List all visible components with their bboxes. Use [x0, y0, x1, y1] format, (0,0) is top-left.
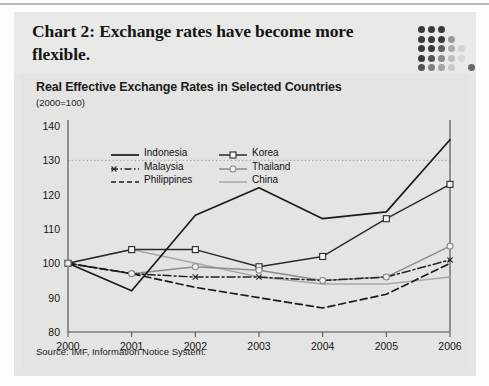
y-axis-tick-label: 90 — [48, 292, 60, 304]
legend-label: Malaysia — [144, 161, 183, 172]
data-point-marker — [320, 253, 326, 259]
legend-label: Indonesia — [144, 147, 187, 158]
data-point-marker — [447, 243, 453, 249]
legend-swatch-indonesia — [110, 154, 140, 156]
y-axis-tick-label: 130 — [42, 154, 60, 166]
data-point-marker — [65, 260, 71, 266]
legend-swatch-philippines — [110, 181, 140, 183]
data-point-marker — [320, 278, 326, 284]
chart-legend: IndonesiaMalaysiaPhilippinesKoreaThailan… — [110, 148, 340, 190]
data-point-marker — [192, 247, 198, 253]
figure-page: Chart 2: Exchange rates have become more… — [0, 0, 489, 386]
legend-swatch-korea — [218, 154, 248, 156]
x-axis-tick-label: 2003 — [247, 340, 271, 352]
legend-swatch-thailand — [218, 168, 248, 170]
legend-label: Philippines — [144, 174, 192, 185]
legend-swatch-china — [218, 181, 248, 183]
y-axis-tick-label: 100 — [42, 257, 60, 269]
x-axis-tick-label: 2005 — [375, 340, 399, 352]
data-point-marker — [447, 181, 453, 187]
legend-label: China — [252, 174, 278, 185]
top-divider — [0, 3, 489, 5]
x-axis-tick-label: 2006 — [438, 340, 462, 352]
chart-card-inner: Real Effective Exchange Rates in Selecte… — [22, 74, 468, 368]
plot-area: 8090100110120130140200020012002200320042… — [22, 74, 468, 368]
y-axis-tick-label: 110 — [43, 223, 60, 235]
series-line-korea — [68, 184, 450, 266]
data-point-marker — [129, 247, 135, 253]
data-point-marker — [383, 274, 389, 280]
title-band: Chart 2: Exchange rates have become more… — [14, 12, 476, 74]
source-note: Source: IMF, Information Notice System. — [36, 346, 206, 357]
figure-panel: Chart 2: Exchange rates have become more… — [14, 12, 476, 376]
legend-label: Korea — [252, 147, 279, 158]
y-axis-tick-label: 120 — [42, 189, 60, 201]
y-axis-tick-label: 80 — [48, 326, 60, 338]
data-point-marker — [256, 267, 262, 273]
y-axis-tick-label: 140 — [42, 120, 60, 132]
data-point-marker — [383, 216, 389, 222]
legend-label: Thailand — [252, 161, 290, 172]
chart-card: Real Effective Exchange Rates in Selecte… — [22, 74, 468, 368]
legend-swatch-malaysia — [110, 168, 140, 170]
line-chart-svg: 8090100110120130140200020012002200320042… — [22, 74, 468, 368]
figure-title: Chart 2: Exchange rates have become more… — [32, 20, 362, 66]
x-axis-tick-label: 2004 — [311, 340, 335, 352]
data-point-marker — [192, 264, 198, 270]
data-point-marker — [129, 271, 135, 277]
